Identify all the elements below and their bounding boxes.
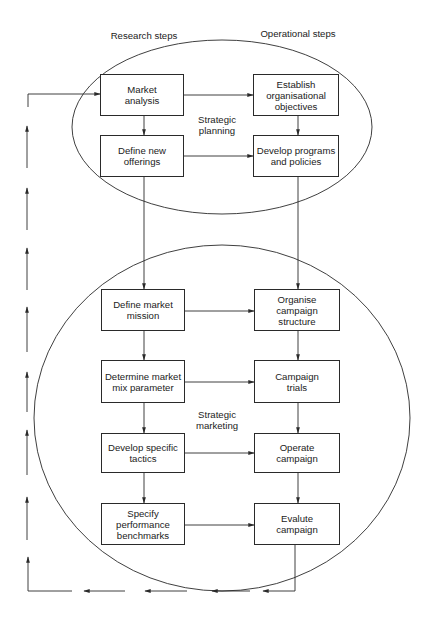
- box-label: Operate campaign: [276, 442, 318, 464]
- box-label: Market analysis: [125, 84, 160, 106]
- box-define-new-offerings: Define new offerings: [100, 135, 184, 177]
- box-label: Define new offerings: [118, 145, 166, 167]
- box-label: Specify performance benchmarks: [116, 508, 170, 541]
- box-market-analysis: Market analysis: [100, 74, 184, 116]
- box-label: Evalute campaign: [276, 513, 318, 535]
- diagram-canvas: [0, 0, 427, 623]
- box-label: Develop specific tactics: [108, 442, 178, 464]
- box-define-market-mission: Define market mission: [101, 289, 185, 331]
- box-establish-objectives: Establish organisational objectives: [253, 74, 339, 116]
- research-steps-header: Research steps: [100, 30, 188, 41]
- box-label: Establish organisational objectives: [266, 79, 326, 112]
- box-label: Determine market mix parameter: [105, 371, 181, 393]
- box-develop-programs: Develop programs and policies: [253, 135, 339, 177]
- box-organise-campaign: Organise campaign structure: [254, 289, 340, 331]
- box-operate-campaign: Operate campaign: [254, 433, 340, 473]
- operational-steps-header: Operational steps: [250, 28, 346, 39]
- strategic-planning-label: Strategic planning: [186, 114, 248, 136]
- box-specify-benchmarks: Specify performance benchmarks: [101, 503, 185, 545]
- box-determine-mix: Determine market mix parameter: [101, 360, 185, 403]
- box-label: Develop programs and policies: [257, 145, 335, 167]
- box-label: Organise campaign structure: [276, 294, 318, 327]
- box-evaluate-campaign: Evalute campaign: [254, 503, 340, 545]
- box-campaign-trials: Campaign trials: [254, 360, 340, 403]
- strategic-marketing-label: Strategic marketing: [186, 409, 248, 431]
- box-label: Campaign trials: [275, 371, 319, 393]
- box-label: Define market mission: [113, 299, 173, 321]
- box-develop-tactics: Develop specific tactics: [101, 433, 185, 473]
